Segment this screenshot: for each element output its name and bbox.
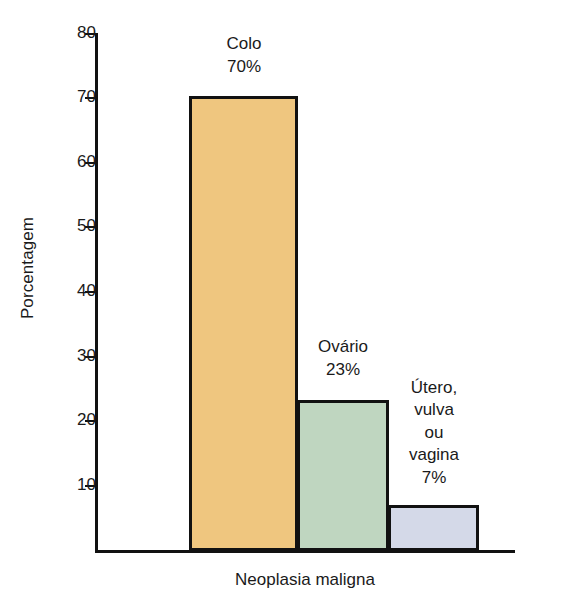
y-tick-label-60: 60 [54,153,96,170]
bar-utero[interactable] [388,505,479,551]
bar-ovario[interactable] [297,400,389,551]
y-tick-label-20: 20 [54,411,96,428]
bar-label-colo: Colo 70% [184,33,304,78]
y-tick-label-10: 10 [54,476,96,493]
bar-colo[interactable] [189,96,298,551]
y-tick-label-80: 80 [54,24,96,41]
y-tick-label-70: 70 [54,88,96,105]
y-tick-label-30: 30 [54,347,96,364]
plot-area: Colo 70% Ovário 23% Útero, vulva ou vagi… [98,33,515,551]
bar-label-utero: Útero, vulva ou vagina 7% [381,377,487,489]
bar-label-ovario: Ovário 23% [290,336,396,381]
y-tick-label-50: 50 [54,217,96,234]
bar-chart-figure: Porcentagem 80 70 60 50 40 30 20 10 [0,0,580,605]
y-axis-title: Porcentagem [18,188,38,348]
y-tick-label-40: 40 [54,282,96,299]
x-axis-title: Neoplasia maligna [95,570,515,590]
